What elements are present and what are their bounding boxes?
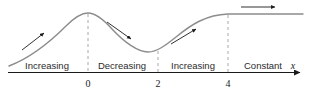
interval-label-constant: Constant [244, 60, 282, 71]
interval-label-increasing-1: Increasing [25, 60, 69, 71]
function-curve [9, 13, 303, 66]
x-axis-label: x [290, 60, 296, 71]
interval-label-decreasing: Decreasing [98, 60, 146, 71]
increasing-decreasing-function-figure: Increasing Decreasing Increasing Constan… [0, 0, 312, 93]
tick-label-2: 2 [156, 78, 161, 89]
function-graph-svg: Increasing Decreasing Increasing Constan… [0, 0, 312, 93]
interval-label-increasing-2: Increasing [171, 60, 215, 71]
tick-label-4: 4 [226, 78, 231, 89]
tick-label-0: 0 [86, 78, 91, 89]
